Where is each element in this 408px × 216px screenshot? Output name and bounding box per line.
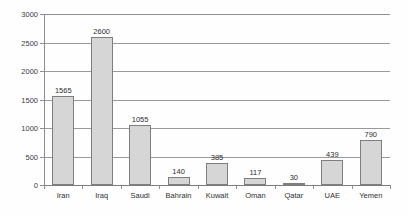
x-tick-mark [82, 185, 83, 189]
x-axis-line [44, 185, 391, 186]
bar-value-label: 385 [211, 153, 224, 162]
x-category-label-iran: Iran [57, 191, 70, 200]
x-category-label-iraq: Iraq [95, 191, 108, 200]
x-category-label-yemen: Yemen [359, 191, 382, 200]
y-tick-mark [40, 157, 44, 158]
gridline-3000 [44, 14, 390, 15]
x-tick-mark [275, 185, 276, 189]
bar-uae [321, 160, 343, 185]
x-tick-mark [159, 185, 160, 189]
x-tick-mark [121, 185, 122, 189]
bar-saudi [129, 125, 151, 185]
bar-value-label: 1055 [132, 115, 149, 124]
bar-oman [244, 178, 266, 185]
bar-kuwait [206, 163, 228, 185]
x-category-label-kuwait: Kuwait [206, 191, 229, 200]
y-tick-label: 500 [0, 152, 38, 161]
x-category-label-qatar: Qatar [284, 191, 303, 200]
x-tick-mark [390, 185, 391, 189]
bar-value-label: 439 [326, 150, 339, 159]
bar-value-label: 790 [365, 130, 378, 139]
x-category-label-saudi: Saudi [131, 191, 150, 200]
x-tick-mark [236, 185, 237, 189]
bar-iran [52, 96, 74, 185]
x-tick-mark [313, 185, 314, 189]
bar-value-label: 140 [172, 167, 185, 176]
y-axis: 050010001500200025003000 [0, 14, 40, 185]
x-category-label-uae: UAE [325, 191, 340, 200]
y-tick-label: 2000 [0, 67, 38, 76]
bar-value-label: 2600 [93, 27, 110, 36]
bar-value-label: 1565 [55, 86, 72, 95]
y-tick-label: 2500 [0, 38, 38, 47]
bar-yemen [360, 140, 382, 185]
y-tick-label: 3000 [0, 10, 38, 19]
y-tick-mark [40, 100, 44, 101]
x-category-label-bahrain: Bahrain [166, 191, 192, 200]
bar-bahrain [168, 177, 190, 185]
bar-value-label: 30 [290, 173, 298, 182]
bar-iraq [91, 37, 113, 185]
x-tick-mark [44, 185, 45, 189]
x-tick-mark [352, 185, 353, 189]
x-tick-mark [198, 185, 199, 189]
y-tick-label: 1500 [0, 95, 38, 104]
y-tick-mark [40, 43, 44, 44]
bar-value-label: 117 [249, 168, 261, 177]
y-tick-label: 1000 [0, 124, 38, 133]
bar-chart: 050010001500200025003000 156526001055140… [0, 0, 408, 216]
y-tick-label: 0 [0, 181, 38, 190]
y-tick-mark [40, 128, 44, 129]
y-axis-line [44, 14, 45, 186]
x-category-label-oman: Oman [245, 191, 265, 200]
y-tick-mark [40, 14, 44, 15]
y-tick-mark [40, 71, 44, 72]
